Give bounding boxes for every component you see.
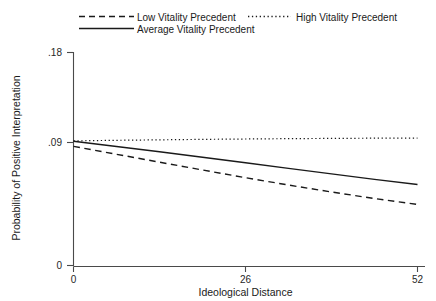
y-axis-title: Probability of Positive Interpretation — [10, 75, 22, 240]
x-tick-label-0: 0 — [71, 274, 77, 285]
chart-background — [0, 0, 436, 301]
x-tick-label-52: 52 — [412, 274, 424, 285]
y-tick-label-009: .09 — [48, 137, 62, 148]
x-axis-title: Ideological Distance — [199, 286, 293, 298]
y-tick-label-0: 0 — [56, 260, 62, 271]
legend-label-average-vitality: Average Vitality Precedent — [137, 24, 255, 35]
legend-label-high-vitality: High Vitality Precedent — [296, 12, 397, 23]
line-chart: Low Vitality Precedent High Vitality Pre… — [0, 0, 436, 301]
legend-label-low-vitality: Low Vitality Precedent — [137, 12, 236, 23]
chart-container: Low Vitality Precedent High Vitality Pre… — [0, 0, 436, 301]
y-tick-label-018: .18 — [48, 47, 62, 58]
x-tick-label-26: 26 — [240, 274, 252, 285]
